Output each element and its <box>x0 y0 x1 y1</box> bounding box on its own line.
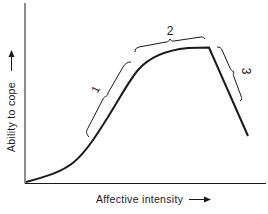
svg-text:3: 3 <box>239 68 253 75</box>
y-axis-label: Ability to cope <box>5 82 17 152</box>
x-axis-label: Affective intensity <box>96 193 184 205</box>
x-axis-arrow-icon <box>189 197 211 203</box>
ability-affect-diagram: 1 2 3 Affective intensity Ability to cop… <box>0 0 268 214</box>
coping-curve <box>26 48 248 183</box>
y-axis-arrow-icon <box>9 50 15 71</box>
svg-text:1: 1 <box>89 84 102 95</box>
bracket-1 <box>87 62 131 137</box>
bracket-2 <box>135 37 205 52</box>
segment-label-3: 3 <box>239 68 253 75</box>
segment-label-2: 2 <box>167 24 174 38</box>
segment-label-1: 1 <box>89 84 102 95</box>
